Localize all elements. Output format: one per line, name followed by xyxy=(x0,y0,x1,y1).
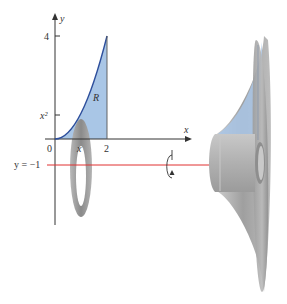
y-axis-arrow-icon xyxy=(52,13,58,20)
x-axis-label: x xyxy=(183,124,189,135)
washer-cross-section xyxy=(70,119,92,217)
y-sample-label: x² xyxy=(39,110,48,121)
region-label: R xyxy=(92,92,99,103)
origin-label: 0 xyxy=(47,143,52,154)
solid-of-revolution-diagram: y 4 x² R x 0 x 2 y = −1 xyxy=(0,0,287,304)
rotation-arrow-icon xyxy=(167,150,175,178)
axis-of-rotation-label: y = −1 xyxy=(14,159,40,170)
y-tick-label-4: 4 xyxy=(44,31,49,42)
x-tick-label-2: 2 xyxy=(104,143,109,154)
x-sample-label: x xyxy=(76,143,82,154)
x-axis-arrow-icon xyxy=(185,136,192,142)
y-axis-label: y xyxy=(59,13,65,24)
solid-of-revolution xyxy=(209,36,271,292)
